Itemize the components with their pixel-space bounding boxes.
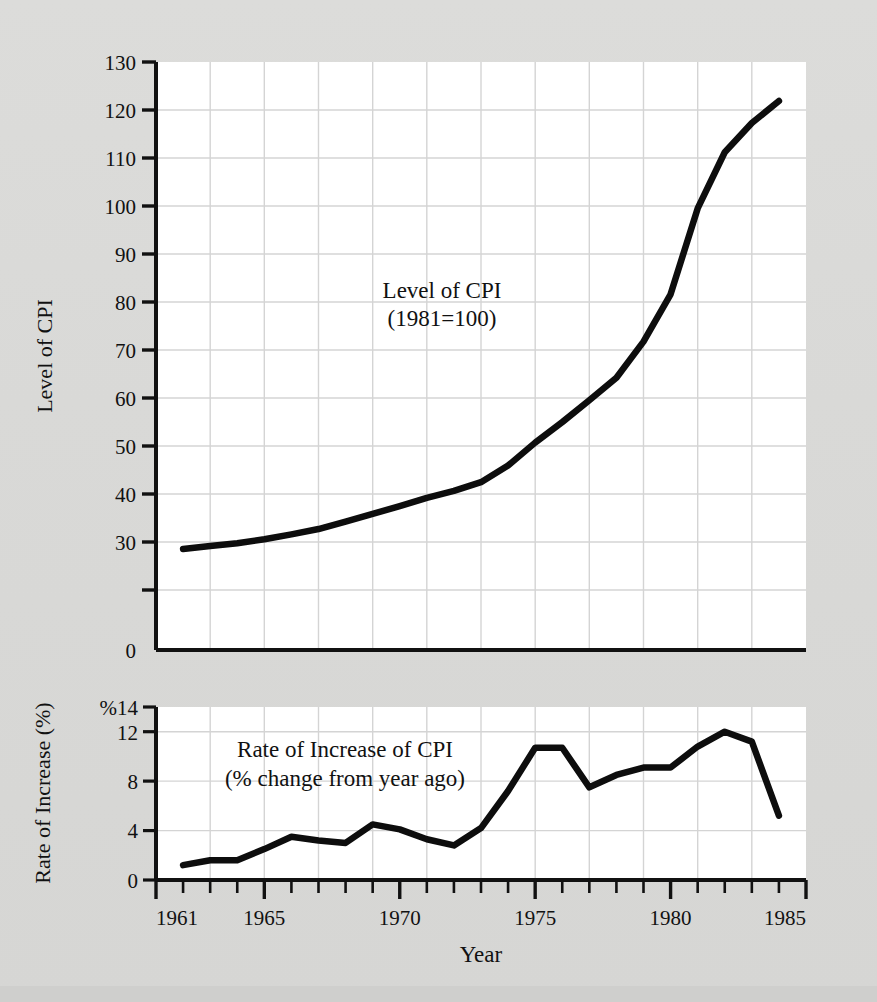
cpi-figure: 130 120 110 100 90 80 70 60 50 40 30 0 L…: [0, 0, 877, 1002]
upper-ytick-130: 130: [105, 51, 137, 75]
lower-ytick-12: 12: [117, 721, 138, 745]
lower-ytick-4: 4: [128, 819, 139, 843]
x-tick-label-1980: 1980: [650, 906, 692, 930]
upper-ytick-120: 120: [105, 99, 137, 123]
upper-ytick-70: 70: [115, 339, 136, 363]
lower-y-axis-label: Rate of Increase (%): [30, 702, 55, 883]
upper-panel: 130 120 110 100 90 80 70 60 50 40 30 0 L…: [32, 51, 806, 663]
lower-annotation-line2: (% change from year ago): [225, 766, 465, 791]
upper-y-axis-label: Level of CPI: [32, 299, 57, 413]
upper-ytick-100: 100: [105, 195, 137, 219]
upper-ytick-110: 110: [105, 147, 136, 171]
x-tick-label-1965: 1965: [243, 906, 285, 930]
lower-ytick-0: 0: [128, 869, 139, 893]
upper-annotation-line1: Level of CPI: [383, 278, 502, 303]
x-tick-label-1975: 1975: [514, 906, 556, 930]
x-axis-tick-labels: 196119651970197519801985: [156, 906, 806, 930]
lower-panel: %14 12 8 4 0 Rate of Increase (%) Rate o…: [30, 696, 806, 967]
lower-ytick-14: %14: [100, 696, 139, 720]
upper-ytick-90: 90: [115, 243, 136, 267]
lower-annotation-line1: Rate of Increase of CPI: [237, 737, 453, 762]
upper-ytick-0: 0: [126, 639, 137, 663]
x-tick-label-1985: 1985: [764, 906, 806, 930]
upper-ytick-40: 40: [115, 483, 136, 507]
x-axis-label: Year: [460, 942, 503, 967]
upper-ytick-80: 80: [115, 291, 136, 315]
lower-ytick-8: 8: [128, 770, 139, 794]
figure-page: 130 120 110 100 90 80 70 60 50 40 30 0 L…: [0, 0, 877, 1002]
x-tick-label-1961: 1961: [156, 906, 198, 930]
upper-y-ticks: [142, 62, 156, 590]
upper-ytick-50: 50: [115, 435, 136, 459]
x-tick-label-1970: 1970: [379, 906, 421, 930]
upper-annotation-line2: (1981=100): [388, 306, 497, 331]
upper-ytick-30: 30: [115, 531, 136, 555]
upper-ytick-60: 60: [115, 387, 136, 411]
